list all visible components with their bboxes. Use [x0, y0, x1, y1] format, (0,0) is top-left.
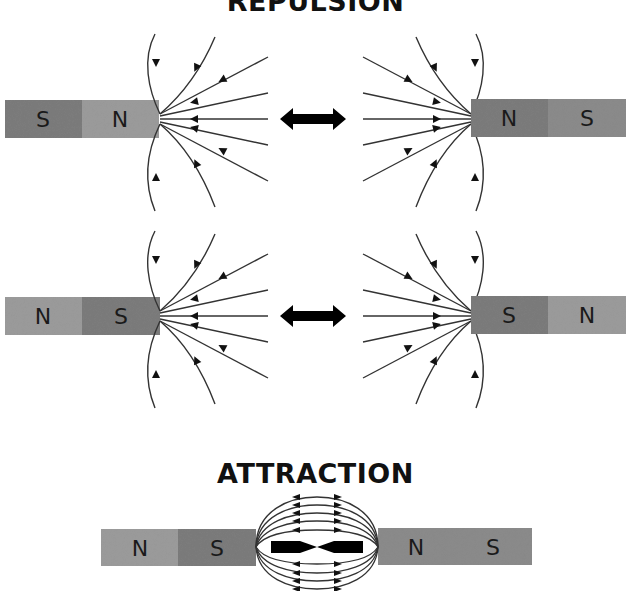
pole-label: S — [580, 106, 594, 131]
pole-label: S — [36, 107, 50, 132]
pole-label: S — [210, 536, 224, 561]
pole-label: N — [408, 535, 424, 560]
pole-label: N — [579, 303, 595, 328]
repulsion-force-arrow-icon — [280, 305, 346, 327]
pole-label: N — [35, 304, 51, 329]
magnet-diagram: S N N S N S S N N S N S — [0, 0, 631, 591]
pole-label: S — [486, 535, 500, 560]
pole-label: N — [501, 106, 517, 131]
attraction-row: N S N S — [101, 494, 532, 591]
pole-label: N — [112, 107, 128, 132]
repulsion-row-2: N S S N — [5, 231, 626, 408]
repulsion-row-1: S N N S — [5, 34, 626, 211]
pole-label: S — [502, 303, 516, 328]
pole-label: S — [114, 304, 128, 329]
attraction-force-arrows-icon — [271, 541, 363, 553]
repulsion-force-arrow-icon — [280, 108, 346, 130]
pole-label: N — [132, 536, 148, 561]
